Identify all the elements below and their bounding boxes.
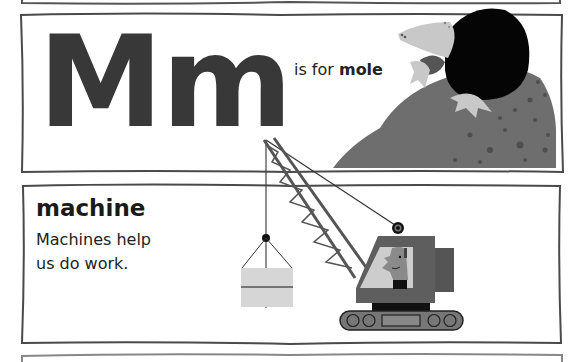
description-line-2: us do work.	[36, 252, 176, 276]
mole-body	[445, 8, 529, 100]
featured-letter: Mm	[38, 20, 291, 146]
is-for-prefix: is for	[294, 60, 339, 79]
next-panel-frame	[22, 354, 562, 362]
word-description: Machines help us do work.	[36, 228, 176, 276]
vocabulary-word: machine	[36, 195, 145, 221]
previous-panel-frame	[22, 0, 560, 4]
is-for-caption: is for mole	[294, 60, 383, 79]
is-for-word: mole	[339, 60, 383, 79]
description-line-1: Machines help	[36, 228, 176, 252]
